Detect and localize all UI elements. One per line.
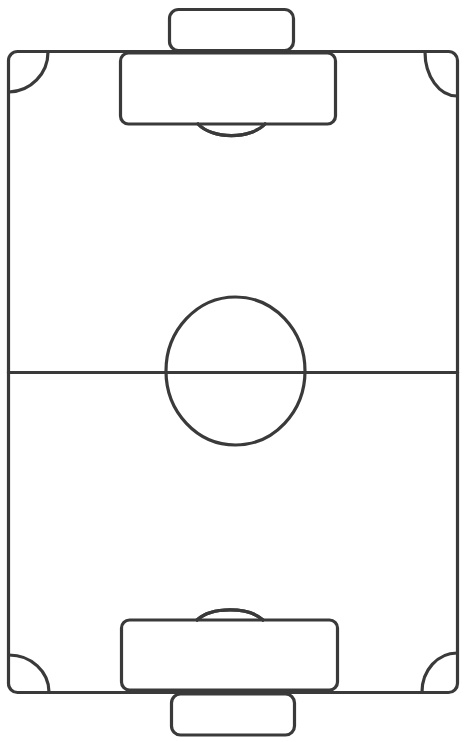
bottom-penalty-box	[122, 620, 338, 690]
bottom-goal	[172, 694, 295, 735]
corner-arc-top-left	[9, 52, 48, 92]
top-penalty-box	[121, 53, 336, 124]
corner-arc-top-right	[425, 52, 457, 96]
top-penalty-arc-visible	[198, 124, 265, 136]
top-goal	[170, 10, 294, 51]
corner-arc-bottom-right	[422, 653, 457, 692]
corner-arc-bottom-left	[9, 655, 49, 692]
soccer-field	[0, 0, 466, 742]
